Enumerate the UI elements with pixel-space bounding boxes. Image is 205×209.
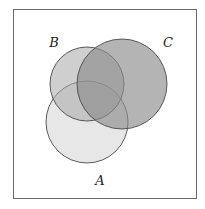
set-label-c: C: [163, 35, 173, 50]
venn-diagram: ABC: [0, 0, 205, 209]
set-label-a: A: [94, 173, 104, 188]
set-label-b: B: [48, 35, 59, 50]
set-circle-c: [77, 39, 167, 129]
